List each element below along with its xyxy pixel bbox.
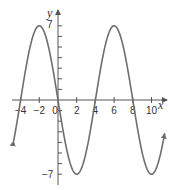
x-tick-label: 0 — [52, 105, 58, 116]
x-tick-labels: −4−20246810 — [15, 105, 158, 116]
y-axis-label: y — [46, 6, 53, 20]
x-tick-label: −2 — [34, 105, 46, 116]
sine-graph: y x 7 −7 −4−20246810 — [0, 0, 170, 190]
x-axis-label: x — [157, 98, 164, 112]
y-tick-label-min: −7 — [42, 169, 54, 180]
x-tick-label: 2 — [74, 105, 80, 116]
y-tick-label-max: 7 — [47, 19, 53, 30]
x-tick-label: −4 — [15, 105, 27, 116]
x-tick-label: 6 — [111, 105, 117, 116]
x-tick-label: 10 — [146, 105, 158, 116]
